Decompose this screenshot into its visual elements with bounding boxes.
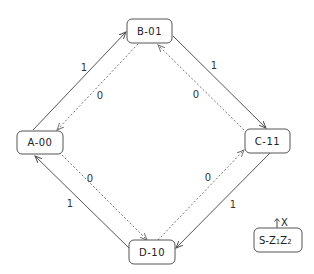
edge-line — [33, 32, 126, 130]
transition-c-to-b: 0 — [158, 45, 244, 130]
edge-label: 1 — [67, 198, 73, 209]
state-c: C-11 — [245, 129, 290, 153]
legend-input-label: X — [281, 217, 288, 228]
legend-state-text: S-Z1Z2 — [259, 235, 292, 247]
edge-label: 1 — [211, 60, 217, 71]
transition-d-to-a: 1 — [35, 156, 129, 248]
transition-b-to-c: 1 — [173, 36, 266, 128]
edge-line — [158, 45, 244, 130]
transition-b-to-a: 0 — [57, 44, 138, 130]
edge-label: 1 — [81, 62, 87, 73]
state-label: C-11 — [255, 136, 280, 147]
edge-label: 0 — [97, 90, 103, 101]
transition-d-to-c: 0 — [158, 150, 244, 240]
edge-label: 1 — [230, 199, 236, 210]
state-label: B-01 — [137, 26, 162, 37]
state-d: D-10 — [129, 240, 175, 264]
edge-line — [35, 156, 129, 248]
edge-label: 0 — [193, 89, 199, 100]
state-a: A-00 — [17, 131, 63, 154]
state-b: B-01 — [127, 19, 172, 43]
legend: X S-Z1Z2 — [254, 217, 302, 253]
state-label: A-00 — [28, 137, 53, 148]
edge-line — [57, 44, 138, 130]
state-diagram: 1 0 1 0 1 0 1 0 B-01 A-00 C-11 — [0, 0, 314, 274]
edge-line — [173, 36, 266, 128]
edge-line — [158, 150, 244, 240]
edge-label: 0 — [87, 173, 93, 184]
state-label: D-10 — [139, 247, 165, 258]
transition-a-to-b: 1 — [33, 32, 126, 130]
legend-state-label: S- — [259, 235, 269, 246]
edge-label: 0 — [205, 172, 211, 183]
edge-line — [62, 155, 147, 240]
legend-z2-sub: 2 — [287, 238, 291, 246]
transition-a-to-d: 0 — [62, 155, 147, 240]
